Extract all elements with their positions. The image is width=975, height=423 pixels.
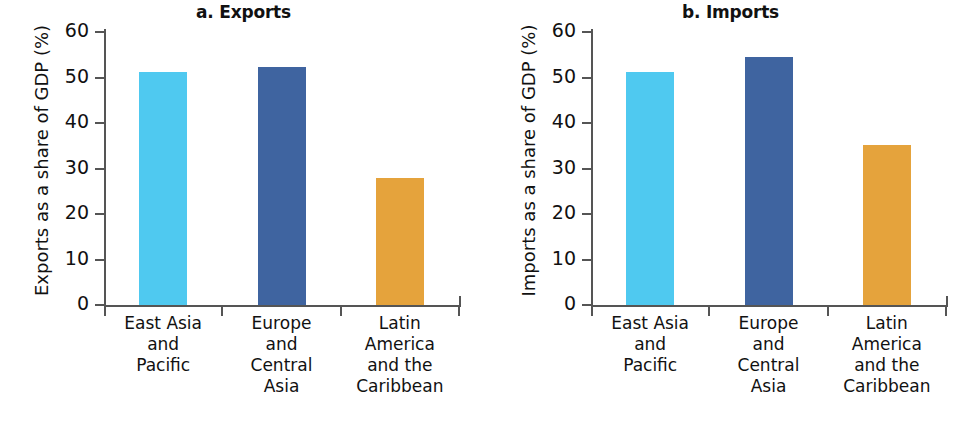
y-axis-tick-label: 0 <box>77 291 89 315</box>
y-axis-tick-label: 60 <box>65 18 89 42</box>
x-axis-category-line: America <box>341 334 459 355</box>
y-axis-label-imports: Imports as a share of GDP (%) <box>518 11 539 311</box>
y-axis-tick: 60 <box>95 31 104 33</box>
y-axis-tick-label: 50 <box>65 64 89 88</box>
y-axis-tick: 0 <box>582 304 591 306</box>
y-axis-tick: 10 <box>95 259 104 261</box>
y-axis-tick-label: 10 <box>65 246 89 270</box>
x-axis-category-line: and <box>222 334 340 355</box>
x-axis-category-line: Central <box>222 355 340 376</box>
x-axis-category-line: Europe <box>222 313 340 334</box>
x-axis-category-label: East AsiaandPacific <box>104 313 222 376</box>
y-axis-label-exports: Exports as a share of GDP (%) <box>31 11 52 311</box>
y-axis-tick-label: 50 <box>552 64 576 88</box>
y-axis-tick-label: 30 <box>65 155 89 179</box>
x-axis-category-line: Asia <box>222 376 340 397</box>
y-axis-tick: 10 <box>582 259 591 261</box>
panel-imports: b. Imports Imports as a share of GDP (%)… <box>487 0 974 423</box>
x-axis-category-line: Latin <box>341 313 459 334</box>
x-axis-category-label: LatinAmericaand theCaribbean <box>341 313 459 397</box>
y-axis-tick: 50 <box>95 77 104 79</box>
x-axis-category-line: America <box>828 334 946 355</box>
bar <box>376 178 424 305</box>
y-axis-tick: 30 <box>95 168 104 170</box>
x-axis-category-line: East Asia <box>591 313 709 334</box>
dual-bar-chart-figure: a. Exports Exports as a share of GDP (%)… <box>0 0 975 423</box>
x-axis-category-line: and the <box>828 355 946 376</box>
x-axis-category-line: East Asia <box>104 313 222 334</box>
x-axis-category-line: and the <box>341 355 459 376</box>
bar <box>745 57 793 305</box>
y-axis-line <box>104 29 106 308</box>
plot-area-imports: 0102030405060 <box>591 32 946 305</box>
y-axis-line <box>591 29 593 308</box>
bar <box>258 67 306 305</box>
x-axis-category-line: and <box>709 334 827 355</box>
y-axis-tick-label: 10 <box>552 246 576 270</box>
x-axis-category-line: Pacific <box>591 355 709 376</box>
y-axis-tick: 20 <box>582 213 591 215</box>
x-axis-category-line: and <box>104 334 222 355</box>
bar <box>863 145 911 305</box>
x-axis-category-label: East AsiaandPacific <box>591 313 709 376</box>
x-axis-category-line: Europe <box>709 313 827 334</box>
y-axis-tick-label: 40 <box>65 109 89 133</box>
y-axis-tick: 50 <box>582 77 591 79</box>
bar <box>626 72 674 305</box>
y-axis-tick: 40 <box>95 122 104 124</box>
y-axis-tick-label: 40 <box>552 109 576 133</box>
x-axis-line <box>591 305 948 307</box>
x-axis-category-line: Central <box>709 355 827 376</box>
x-axis-category-line: and <box>591 334 709 355</box>
y-axis-tick: 20 <box>95 213 104 215</box>
y-axis-tick-label: 60 <box>552 18 576 42</box>
x-axis-category-line: Caribbean <box>828 376 946 397</box>
y-axis-tick-label: 20 <box>552 200 576 224</box>
x-axis-category-line: Caribbean <box>341 376 459 397</box>
x-axis-category-label: EuropeandCentralAsia <box>709 313 827 397</box>
x-axis-category-label: EuropeandCentralAsia <box>222 313 340 397</box>
y-axis-tick: 0 <box>95 304 104 306</box>
y-axis-tick: 30 <box>582 168 591 170</box>
bar <box>139 72 187 305</box>
x-axis-category-label: LatinAmericaand theCaribbean <box>828 313 946 397</box>
plot-area-exports: 0102030405060 <box>104 32 459 305</box>
y-axis-tick-label: 30 <box>552 155 576 179</box>
x-axis-category-line: Latin <box>828 313 946 334</box>
y-axis-tick-label: 20 <box>65 200 89 224</box>
panel-exports: a. Exports Exports as a share of GDP (%)… <box>0 0 487 423</box>
x-axis-line <box>104 305 461 307</box>
y-axis-tick: 40 <box>582 122 591 124</box>
y-axis-tick: 60 <box>582 31 591 33</box>
x-axis-category-line: Pacific <box>104 355 222 376</box>
x-axis-category-line: Asia <box>709 376 827 397</box>
y-axis-tick-label: 0 <box>564 291 576 315</box>
